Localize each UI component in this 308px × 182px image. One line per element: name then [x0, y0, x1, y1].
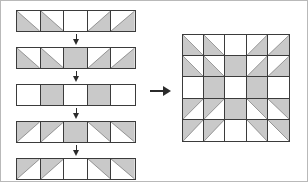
block-cell	[225, 35, 246, 56]
patch-full-gray	[41, 85, 64, 105]
patch-full-gray	[225, 56, 245, 76]
patch-tri-tl	[41, 159, 64, 179]
patch-tri-tr	[268, 120, 289, 141]
block-cell	[183, 99, 204, 120]
arrow-head	[73, 150, 79, 156]
patch-tri-br	[88, 48, 111, 68]
block-cell	[183, 56, 204, 77]
strip-cell	[64, 48, 88, 68]
block-cell	[247, 35, 268, 56]
arrow-right-icon	[150, 86, 172, 96]
block-cell	[247, 77, 268, 98]
strip-cell	[88, 122, 112, 142]
patch-tri-bl	[204, 56, 224, 76]
block-cell	[204, 35, 225, 56]
patch-tri-bl	[183, 35, 203, 55]
quilt-piecing-diagram	[0, 0, 308, 182]
patch-tri-tl	[17, 159, 40, 179]
patch-tri-br	[247, 35, 267, 55]
arrow-head	[73, 76, 79, 82]
patch-tri-tr	[88, 159, 111, 179]
block-cell	[268, 56, 289, 77]
strip-cell	[111, 11, 135, 31]
strip-row-4	[16, 121, 136, 143]
block-cell	[268, 99, 289, 120]
strip-cell	[41, 159, 65, 179]
strip-cell	[111, 85, 135, 105]
patch-tri-tr	[88, 122, 111, 142]
strip-cell	[88, 48, 112, 68]
patch-tri-br	[111, 48, 135, 68]
block-cell	[204, 56, 225, 77]
strip-cell	[17, 85, 41, 105]
patch-full-gray	[88, 85, 111, 105]
patch-tri-bl	[41, 11, 64, 31]
strip-cell	[64, 11, 88, 31]
patch-full-gray	[247, 77, 267, 97]
patch-tri-bl	[204, 35, 224, 55]
block-cell	[204, 120, 225, 141]
strip-row-1	[16, 10, 136, 32]
block-cell	[204, 99, 225, 120]
block-cell	[183, 120, 204, 141]
patch-tri-tl	[204, 120, 224, 141]
block-cell	[183, 77, 204, 98]
patch-tri-tl	[183, 120, 203, 141]
strip-cell	[41, 122, 65, 142]
strip-cell	[111, 159, 135, 179]
patch-full-gray	[64, 122, 87, 142]
patch-tri-br	[268, 56, 289, 76]
patch-tri-tr	[247, 99, 267, 119]
strip-cell	[64, 159, 88, 179]
arrow-head	[73, 39, 79, 45]
patch-tri-br	[247, 56, 267, 76]
strip-cell	[64, 122, 88, 142]
patch-tri-tl	[183, 99, 203, 119]
patch-full-gray	[204, 77, 224, 97]
arrow-head	[163, 86, 171, 96]
strip-cell	[88, 159, 112, 179]
patch-tri-tl	[17, 122, 40, 142]
arrow-shaft	[150, 90, 164, 92]
patch-tri-bl	[41, 48, 64, 68]
block-cell	[268, 35, 289, 56]
patch-tri-tr	[111, 122, 135, 142]
strip-cell	[41, 85, 65, 105]
strip-cell	[17, 48, 41, 68]
block-cell	[247, 56, 268, 77]
strip-row-2	[16, 47, 136, 69]
patch-tri-tr	[247, 120, 267, 141]
strip-cell	[17, 122, 41, 142]
strip-cell	[41, 11, 65, 31]
strip-cell	[17, 159, 41, 179]
patch-tri-tl	[204, 99, 224, 119]
strip-sequence	[16, 10, 136, 180]
strip-cell	[64, 85, 88, 105]
arrow-down-icon	[71, 108, 82, 119]
block-cell	[268, 120, 289, 141]
strip-cell	[88, 85, 112, 105]
patch-full-gray	[225, 99, 245, 119]
block-cell	[225, 56, 246, 77]
block-cell	[225, 120, 246, 141]
patch-tri-tl	[41, 122, 64, 142]
strip-cell	[111, 48, 135, 68]
patch-full-gray	[64, 48, 87, 68]
block-cell	[225, 77, 246, 98]
block-cell	[183, 35, 204, 56]
strip-row-3	[16, 84, 136, 106]
patch-tri-br	[88, 11, 111, 31]
patch-tri-bl	[183, 56, 203, 76]
strip-row-5	[16, 158, 136, 180]
block-cell	[268, 77, 289, 98]
block-cell	[247, 120, 268, 141]
patch-tri-bl	[17, 48, 40, 68]
arrow-down-icon	[71, 34, 82, 45]
block-cell	[247, 99, 268, 120]
patch-tri-tr	[268, 99, 289, 119]
arrow-head	[73, 113, 79, 119]
strip-cell	[41, 48, 65, 68]
arrow-down-icon	[71, 145, 82, 156]
strip-cell	[88, 11, 112, 31]
patch-tri-br	[268, 35, 289, 55]
